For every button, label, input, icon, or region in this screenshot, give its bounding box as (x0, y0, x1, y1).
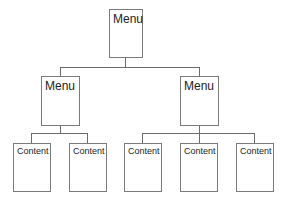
connector-content2 (87, 133, 88, 143)
connector-content3 (142, 133, 143, 143)
content-label: Content (240, 146, 272, 156)
content-label: Content (73, 146, 105, 156)
content-node: Content (236, 143, 274, 192)
connector-content1 (31, 133, 32, 143)
connector-menu1-down (60, 125, 61, 133)
connector-menu1-bar (31, 133, 88, 134)
connector-content5 (254, 133, 255, 143)
content-node: Content (180, 143, 218, 192)
connector-menu2-down (199, 125, 200, 133)
menu-label: Menu (184, 79, 214, 93)
content-node: Content (13, 143, 51, 192)
connector-root-bar (60, 67, 200, 68)
content-label: Content (17, 146, 49, 156)
connector-menu1-up (60, 67, 61, 76)
content-node: Content (69, 143, 107, 192)
connector-content4 (199, 133, 200, 143)
connector-menu2-up (199, 67, 200, 76)
root-menu-node: Menu (109, 9, 143, 58)
content-label: Content (184, 146, 216, 156)
content-node: Content (124, 143, 162, 192)
menu-node-right: Menu (180, 76, 219, 126)
menu-label: Menu (45, 79, 75, 93)
root-menu-label: Menu (113, 12, 143, 26)
content-label: Content (128, 146, 160, 156)
connector-root-down (125, 57, 126, 67)
menu-node-left: Menu (41, 76, 80, 126)
